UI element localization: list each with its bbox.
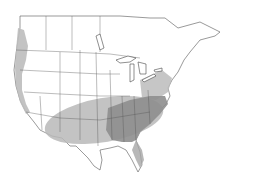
range-map <box>0 0 258 189</box>
land-outline <box>14 16 220 172</box>
landmass <box>14 16 220 172</box>
lake-michigan <box>130 64 134 82</box>
